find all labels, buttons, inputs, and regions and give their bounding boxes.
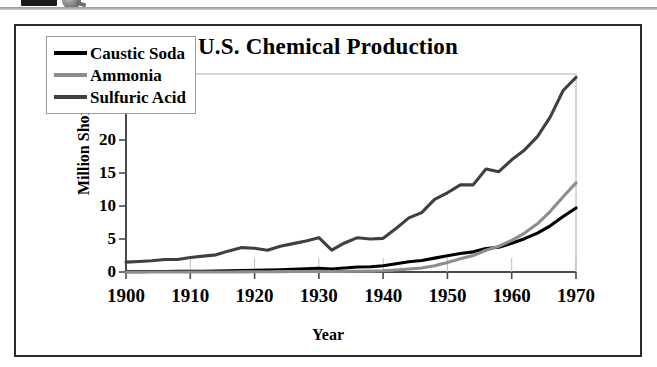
x-tick-label: 1950 — [417, 286, 477, 305]
legend-item-ammonia: Ammonia — [54, 64, 186, 86]
figure-frame: U.S. Chemical Production Million Short T… — [14, 24, 642, 357]
x-tick-label: 1940 — [353, 286, 413, 305]
x-tick-label: 1930 — [289, 286, 349, 305]
x-tick-label: 1970 — [546, 286, 606, 305]
legend-item-caustic-soda: Caustic Soda — [54, 42, 186, 64]
scan-artifact-toolbar-strip — [0, 0, 657, 11]
legend-swatch-icon — [54, 95, 87, 99]
legend-item-sulfuric-acid: Sulfuric Acid — [54, 86, 186, 108]
y-tick-label: 15 — [82, 164, 116, 181]
y-tick-label: 0 — [82, 263, 116, 280]
legend-swatch-icon — [54, 73, 87, 77]
x-tick-label: 1910 — [160, 286, 220, 305]
x-axis-title: Year — [16, 326, 640, 344]
legend-label: Caustic Soda — [90, 45, 185, 62]
y-tick-label: 10 — [82, 197, 116, 214]
horizontal-rule-divider — [0, 7, 657, 10]
toolbar-block-icon — [21, 0, 57, 6]
x-tick-label: 1900 — [96, 286, 156, 305]
y-tick-label: 20 — [82, 131, 116, 148]
x-tick-label: 1960 — [482, 286, 542, 305]
legend-label: Ammonia — [90, 67, 162, 84]
x-tick-label: 1920 — [225, 286, 285, 305]
legend-swatch-icon — [54, 51, 87, 55]
chart-legend: Caustic SodaAmmoniaSulfuric Acid — [46, 36, 196, 114]
legend-label: Sulfuric Acid — [90, 89, 186, 106]
y-tick-label: 5 — [82, 230, 116, 247]
